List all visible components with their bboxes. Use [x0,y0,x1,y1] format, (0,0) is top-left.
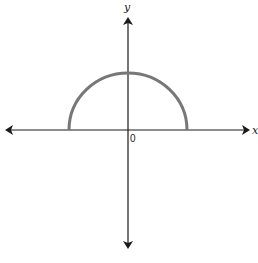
origin-label: 0 [130,133,136,144]
coordinate-plane: y x 0 [0,0,258,263]
x-axis-label: x [252,124,258,137]
diagram-canvas: y x 0 [0,0,258,263]
y-axis-label: y [123,1,131,14]
